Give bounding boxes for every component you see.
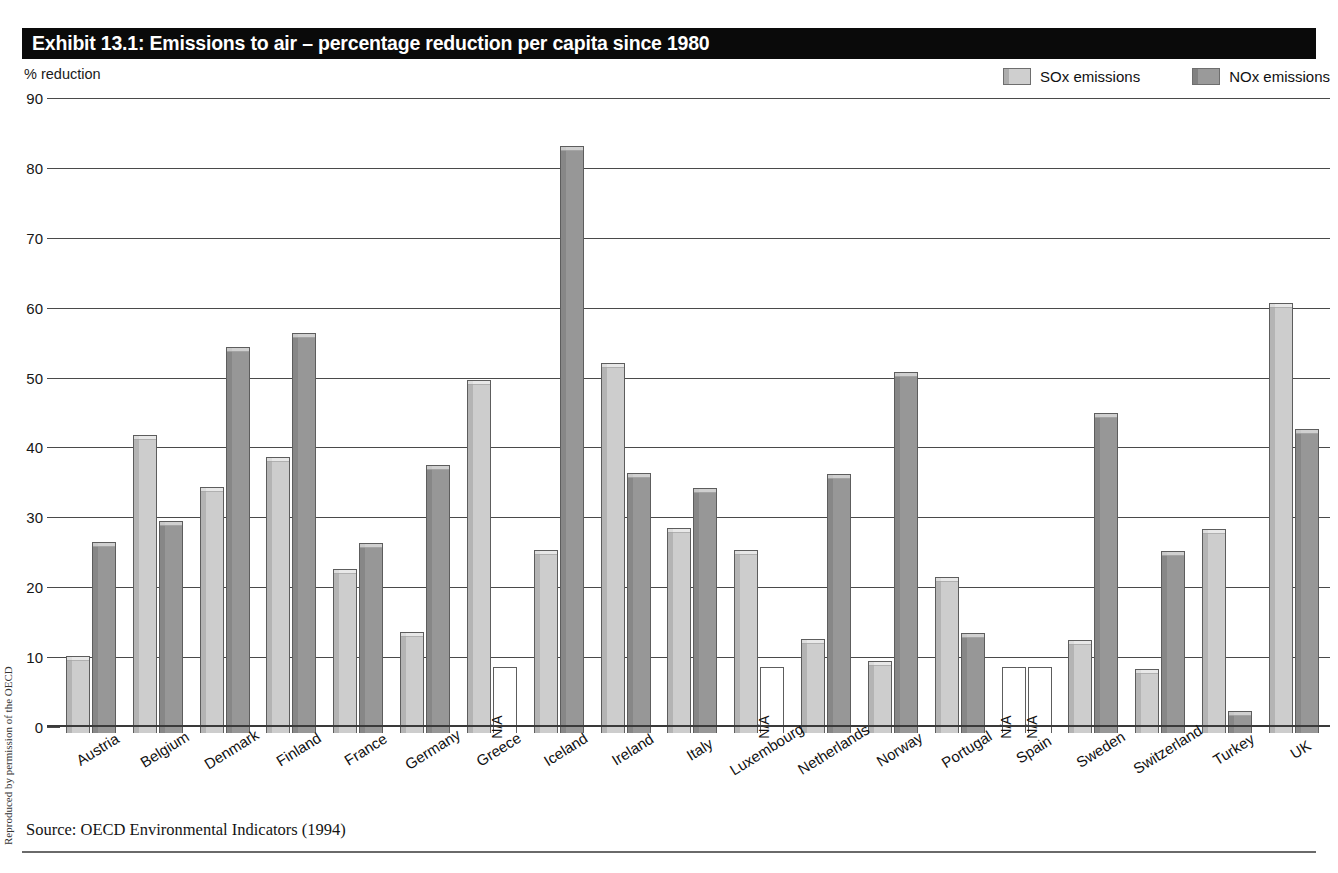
y-tick-label: 70: [26, 229, 43, 246]
x-axis-label-cell: Spain: [996, 740, 1063, 820]
bar-portugal-sox: [935, 577, 959, 733]
bar-portugal-nox: [961, 633, 985, 733]
x-axis-label-cell: Finland: [260, 740, 327, 820]
bar-denmark-nox: [226, 347, 250, 733]
bar-finland-nox: [292, 333, 316, 733]
y-axis-caption: % reduction: [24, 66, 101, 82]
x-axis-label-france: France: [341, 730, 390, 769]
bar-group: N/A: [728, 104, 795, 733]
source-note: Source: OECD Environmental Indicators (1…: [26, 820, 346, 840]
x-axis-label-cell: UK: [1263, 740, 1330, 820]
y-tick-mark: [47, 517, 60, 518]
x-axis-label-cell: Netherlands: [795, 740, 862, 820]
y-tick-label: 10: [26, 649, 43, 666]
x-axis-label-ireland: Ireland: [609, 730, 657, 769]
bar-norway-sox: [868, 661, 892, 733]
x-axis-label-portugal: Portugal: [938, 727, 994, 771]
y-tick-label: 30: [26, 509, 43, 526]
exhibit-title-bar: Exhibit 13.1: Emissions to air – percent…: [22, 28, 1316, 59]
x-axis-label-cell: Denmark: [194, 740, 261, 820]
bar-uk-nox: [1295, 429, 1319, 733]
bottom-divider: [22, 851, 1316, 853]
x-axis-label-uk: UK: [1287, 736, 1314, 761]
bar-austria-nox: [92, 542, 116, 733]
y-tick-mark: [47, 378, 60, 379]
legend-label-sox: SOx emissions: [1040, 68, 1140, 85]
bar-group: [528, 104, 595, 733]
bar-italy-nox: [693, 488, 717, 733]
bar-group: [394, 104, 461, 733]
bar-sweden-nox: [1094, 413, 1118, 733]
y-tick-label: 90: [26, 90, 43, 107]
bar-germany-sox: [400, 632, 424, 733]
chart-plot-area: 0102030405060708090 N/AN/AN/AN/A: [60, 92, 1330, 733]
x-axis-label-cell: Belgium: [127, 740, 194, 820]
x-axis-labels: AustriaBelgiumDenmarkFinlandFranceGerman…: [60, 740, 1330, 820]
legend-label-nox: NOx emissions: [1229, 68, 1330, 85]
bar-group: [929, 104, 996, 733]
bar-france-nox: [359, 543, 383, 733]
na-label: N/A: [756, 715, 772, 738]
y-tick-mark: [47, 587, 60, 588]
bar-netherlands-nox: [827, 474, 851, 733]
y-tick-label: 0: [35, 719, 43, 736]
bar-denmark-sox: [200, 487, 224, 733]
y-tick-label: 60: [26, 299, 43, 316]
bar-finland-sox: [266, 457, 290, 733]
x-axis-label-cell: Luxembourg: [728, 740, 795, 820]
bar-ireland-nox: [627, 473, 651, 733]
page-title: Exhibit 13.1: Emissions to air – percent…: [22, 32, 710, 55]
bar-italy-sox: [667, 528, 691, 733]
bar-group: N/AN/A: [996, 104, 1063, 733]
bar-group: [1263, 104, 1330, 733]
x-axis-label-cell: Ireland: [595, 740, 662, 820]
bar-group: [595, 104, 662, 733]
gridline: [60, 98, 1330, 99]
x-axis-label-austria: Austria: [74, 730, 123, 769]
x-axis-label-cell: Iceland: [528, 740, 595, 820]
bar-group: [1129, 104, 1196, 733]
bar-netherlands-sox: [801, 639, 825, 733]
bar-na-luxembourg-nox: N/A: [760, 667, 784, 733]
bar-switzerland-nox: [1161, 551, 1185, 733]
bar-group: [127, 104, 194, 733]
bar-na-spain-sox: N/A: [1002, 667, 1026, 733]
bar-luxembourg-sox: [734, 550, 758, 733]
axis-baseline: [47, 725, 1330, 727]
bar-norway-nox: [894, 372, 918, 733]
na-label: N/A: [1024, 715, 1040, 738]
legend-swatch-nox-icon: [1192, 68, 1220, 85]
x-axis-label-cell: Portugal: [929, 740, 996, 820]
x-axis-label-turkey: Turkey: [1210, 730, 1257, 768]
bar-germany-nox: [426, 465, 450, 733]
bar-france-sox: [333, 569, 357, 733]
x-axis-label-norway: Norway: [874, 729, 926, 770]
y-tick-mark: [47, 657, 60, 658]
bar-group: [661, 104, 728, 733]
bar-greece-sox: [467, 380, 491, 733]
bar-belgium-nox: [159, 521, 183, 733]
side-credit-text: Reproduced by permission of the OECD: [2, 666, 14, 845]
bar-sweden-sox: [1068, 640, 1092, 733]
legend-item-nox: NOx emissions: [1192, 68, 1330, 85]
x-axis-label-belgium: Belgium: [137, 728, 192, 771]
x-axis-label-cell: Switzerland: [1129, 740, 1196, 820]
x-axis-label-iceland: Iceland: [541, 729, 591, 769]
bar-group: [60, 104, 127, 733]
y-tick-label: 80: [26, 159, 43, 176]
bar-austria-sox: [66, 656, 90, 733]
x-axis-label-italy: Italy: [683, 735, 715, 764]
bar-group: [1062, 104, 1129, 733]
y-tick-mark: [47, 168, 60, 169]
bar-group: [327, 104, 394, 733]
x-axis-label-sweden: Sweden: [1073, 728, 1128, 771]
y-tick-label: 40: [26, 439, 43, 456]
y-tick-mark: [47, 447, 60, 448]
legend-swatch-sox-icon: [1003, 68, 1031, 85]
x-axis-label-cell: France: [327, 740, 394, 820]
y-tick-mark: [47, 98, 60, 99]
y-tick-label: 20: [26, 579, 43, 596]
bar-na-spain-nox: N/A: [1028, 667, 1052, 733]
chart-legend: SOx emissions NOx emissions: [1003, 68, 1330, 85]
bar-belgium-sox: [133, 435, 157, 733]
